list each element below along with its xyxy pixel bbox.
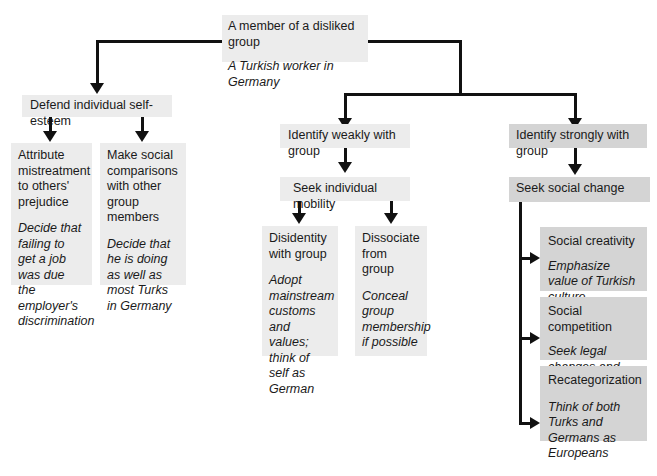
attribute-mistreatment-node: Attribute mistreatment to others' prejud… — [11, 143, 92, 285]
arrow-right-icon — [530, 252, 540, 264]
node-title: Social creativity — [548, 234, 639, 250]
social-competition-node: Social competition Seek legal changes an… — [540, 297, 647, 360]
connector — [368, 40, 461, 43]
node-title: Dissociate from group — [362, 231, 420, 278]
arrow-down-icon — [90, 83, 104, 94]
node-title: Disidentity with group — [269, 231, 331, 262]
arrow-down-icon — [292, 213, 306, 224]
node-example: Decide that he is doing as well as most … — [107, 237, 179, 315]
connector — [96, 40, 99, 84]
root-example: A Turkish worker in Germany — [228, 59, 362, 90]
node-title: Identify strongly with group — [516, 128, 640, 159]
node-title: Seek social change — [516, 181, 643, 197]
node-example: Adopt mainstream customs and values; thi… — [269, 273, 331, 397]
arrow-right-icon — [530, 417, 540, 429]
seek-individual-mobility-node: Seek individual mobility — [280, 177, 410, 201]
root-title: A member of a disliked group — [228, 19, 362, 50]
node-example: Conceal group membership if possible — [362, 289, 420, 351]
node-title: Attribute mistreatment to others' prejud… — [18, 148, 85, 210]
recategorization-node: Recategorization Think of both Turks and… — [540, 366, 647, 441]
social-creativity-node: Social creativity Emphasize value of Tur… — [540, 227, 647, 291]
connector — [574, 93, 577, 120]
identify-weakly-node: Identify weakly with group — [280, 124, 410, 148]
connector — [344, 93, 576, 96]
node-example: Think of both Turks and Germans as Europ… — [548, 400, 639, 462]
connector — [344, 93, 347, 120]
arrow-down-icon — [43, 131, 57, 142]
node-title: Recategorization — [548, 373, 639, 389]
node-title: Seek individual mobility — [293, 181, 397, 212]
connector — [459, 40, 462, 95]
arrow-down-icon — [135, 131, 149, 142]
connector — [519, 202, 522, 424]
seek-social-change-node: Seek social change — [509, 177, 650, 202]
node-example: Decide that failing to get a job was due… — [18, 221, 85, 330]
arrow-down-icon — [338, 162, 352, 173]
connector — [96, 40, 222, 43]
arrow-down-icon — [384, 213, 398, 224]
social-comparisons-node: Make social comparisons with other group… — [100, 143, 186, 285]
node-title: Social competition — [548, 304, 639, 335]
node-title: Make social comparisons with other group… — [107, 148, 179, 226]
arrow-right-icon — [530, 332, 540, 344]
root-node: A member of a disliked group A Turkish w… — [222, 15, 368, 62]
defend-self-esteem-node: Defend individual self-esteem — [22, 95, 172, 117]
arrow-down-icon — [568, 164, 582, 175]
identify-strongly-node: Identify strongly with group — [509, 124, 647, 148]
dissociate-node: Dissociate from group Conceal group memb… — [355, 226, 427, 356]
disidentity-node: Disidentity with group Adopt mainstream … — [262, 226, 338, 356]
